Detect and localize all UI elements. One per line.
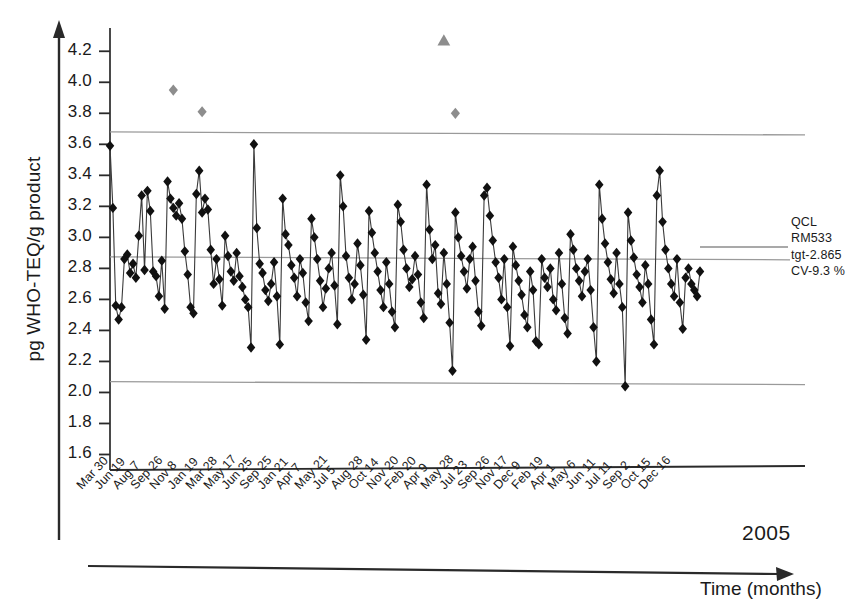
data-point-marker bbox=[546, 263, 555, 273]
data-point-marker bbox=[583, 254, 592, 264]
data-point-marker bbox=[299, 268, 308, 278]
data-point-marker bbox=[676, 297, 685, 307]
y-tick-label: 2.2 bbox=[48, 350, 92, 370]
data-point-marker bbox=[284, 240, 293, 250]
data-point-marker bbox=[468, 241, 477, 251]
y-axis-arrowhead bbox=[53, 20, 65, 38]
data-point-marker bbox=[655, 165, 664, 175]
data-point-marker bbox=[106, 141, 115, 151]
data-point-marker bbox=[411, 251, 420, 261]
data-point-marker bbox=[327, 248, 336, 258]
data-point-marker bbox=[293, 291, 302, 301]
data-point-marker bbox=[595, 179, 604, 189]
data-point-marker bbox=[322, 283, 331, 293]
data-point-marker bbox=[612, 248, 621, 258]
y-axis-title: pg WHO-TEQ/g product bbox=[23, 109, 45, 409]
data-point-marker bbox=[347, 294, 356, 304]
data-point-marker bbox=[160, 304, 169, 314]
data-point-marker bbox=[661, 245, 670, 255]
data-point-marker bbox=[457, 251, 466, 261]
data-point-marker bbox=[497, 294, 506, 304]
data-point-marker bbox=[471, 276, 480, 286]
data-point-marker bbox=[353, 238, 362, 248]
y-tick-label: 2.4 bbox=[48, 319, 92, 339]
data-point-marker bbox=[356, 260, 365, 270]
data-point-marker bbox=[250, 139, 259, 149]
data-point-marker bbox=[394, 200, 403, 210]
data-point-marker bbox=[201, 193, 210, 203]
data-point-marker bbox=[448, 366, 457, 376]
data-point-marker bbox=[333, 319, 342, 329]
data-point-marker bbox=[575, 276, 584, 286]
data-point-marker bbox=[376, 285, 385, 295]
data-point-marker bbox=[238, 282, 247, 292]
data-point-marker bbox=[319, 302, 328, 312]
data-point-marker bbox=[537, 254, 546, 264]
data-point-marker bbox=[255, 259, 264, 269]
data-point-marker bbox=[324, 263, 333, 273]
outlier-markers bbox=[169, 34, 460, 119]
data-point-marker bbox=[155, 291, 164, 301]
data-point-marker bbox=[494, 272, 503, 282]
data-point-marker bbox=[247, 342, 256, 352]
data-point-marker bbox=[653, 190, 662, 200]
data-point-marker bbox=[509, 241, 518, 251]
data-point-marker bbox=[140, 265, 149, 275]
data-point-marker bbox=[313, 254, 322, 264]
data-point-marker bbox=[543, 282, 552, 292]
data-point-marker bbox=[362, 335, 371, 345]
data-point-marker bbox=[460, 266, 469, 276]
data-point-marker bbox=[684, 263, 693, 273]
data-point-marker bbox=[558, 279, 567, 289]
data-point-marker bbox=[425, 224, 434, 234]
outlier-diamond-marker bbox=[451, 108, 460, 119]
legend-reference-material: RM533 bbox=[791, 230, 845, 246]
data-point-marker bbox=[658, 217, 667, 227]
data-point-marker bbox=[667, 279, 676, 289]
data-point-marker bbox=[304, 316, 313, 326]
data-point-marker bbox=[264, 296, 273, 306]
outlier-diamond-marker bbox=[169, 84, 178, 95]
data-point-marker bbox=[624, 207, 633, 217]
data-point-marker bbox=[696, 266, 705, 276]
data-point-marker bbox=[517, 290, 526, 300]
y-tick-label: 3.8 bbox=[48, 102, 92, 122]
data-point-marker bbox=[345, 272, 354, 282]
data-point-marker bbox=[563, 328, 572, 338]
data-point-marker bbox=[635, 282, 644, 292]
data-point-marker bbox=[218, 300, 227, 310]
data-point-marker bbox=[489, 235, 498, 245]
data-point-marker bbox=[365, 206, 374, 216]
data-point-marker bbox=[486, 210, 495, 220]
data-point-marker bbox=[673, 254, 682, 264]
data-point-marker bbox=[445, 317, 454, 327]
data-series-markers bbox=[106, 139, 705, 391]
data-point-marker bbox=[523, 322, 532, 332]
data-point-marker bbox=[451, 207, 460, 217]
data-point-marker bbox=[463, 283, 472, 293]
data-point-marker bbox=[586, 285, 595, 295]
data-point-marker bbox=[290, 272, 299, 282]
data-point-marker bbox=[678, 324, 687, 334]
data-point-marker bbox=[650, 339, 659, 349]
data-point-marker bbox=[330, 280, 339, 290]
data-point-marker bbox=[270, 257, 279, 267]
data-point-marker bbox=[526, 266, 535, 276]
data-point-marker bbox=[578, 291, 587, 301]
data-point-marker bbox=[465, 254, 474, 264]
y-tick-label: 2.6 bbox=[48, 288, 92, 308]
data-point-marker bbox=[117, 302, 126, 312]
data-point-marker bbox=[385, 279, 394, 289]
y-tick-label: 1.6 bbox=[48, 443, 92, 463]
data-point-marker bbox=[379, 302, 388, 312]
data-point-marker bbox=[500, 254, 509, 264]
data-point-marker bbox=[477, 321, 486, 331]
y-tick-label: 3.6 bbox=[48, 133, 92, 153]
data-point-marker bbox=[181, 246, 190, 256]
data-point-marker bbox=[221, 231, 230, 241]
data-point-marker bbox=[163, 176, 172, 186]
x-axis-title: Time (months) bbox=[700, 578, 822, 600]
chart-canvas bbox=[0, 0, 866, 609]
data-point-marker bbox=[503, 302, 512, 312]
data-point-marker bbox=[391, 322, 400, 332]
